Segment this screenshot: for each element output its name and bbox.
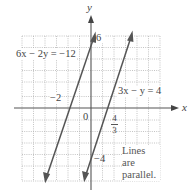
- x-axis-arrow-icon: [171, 105, 179, 111]
- parallel-note: Lines are parallel.: [122, 145, 160, 181]
- note-line-1: Lines: [122, 145, 160, 157]
- line2-top-arrow-icon: [128, 33, 132, 41]
- line1-equation-label: 6x − 2y = −12: [15, 49, 77, 60]
- line1-top-arrow-icon: [91, 34, 95, 42]
- line2-equation-label: 3x − y = 4: [117, 86, 162, 97]
- y-axis-arrow-icon: [88, 15, 94, 23]
- line2-bottom-arrow-icon: [83, 172, 88, 180]
- x-axis-label: x: [182, 102, 187, 113]
- note-line-2: are: [122, 157, 160, 169]
- y-axis-label: y: [87, 2, 92, 13]
- tick-label-6: 6: [96, 33, 101, 44]
- origin-label: 0: [83, 112, 88, 123]
- note-line-3: parallel.: [122, 169, 160, 181]
- line1-bottom-arrow-icon: [44, 173, 49, 181]
- tick-label-4-3: 4 3: [111, 114, 118, 135]
- tick-label-neg2: −2: [50, 93, 61, 104]
- tick-label-neg4: −4: [94, 154, 105, 165]
- fraction-denominator: 3: [112, 126, 117, 135]
- fraction-numerator: 4: [112, 114, 117, 123]
